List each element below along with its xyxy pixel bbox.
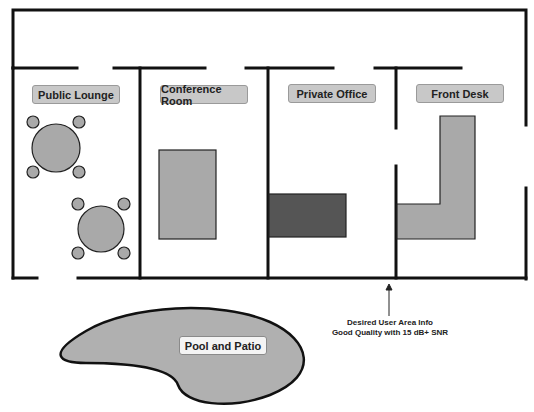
label-front-desk: Front Desk [416,84,504,103]
lounge-table-1 [27,116,85,178]
annotation-note: Desired User Area Info Good Quality with… [322,318,458,338]
arrow-icon [386,284,392,316]
annotation-line-2: Good Quality with 15 dB+ SNR [322,328,458,338]
lounge-table-2 [72,198,130,259]
label-private-office: Private Office [288,84,376,103]
label-pool-and-patio: Pool and Patio [179,336,267,355]
label-public-lounge: Public Lounge [32,85,120,104]
conference-table [159,150,216,239]
front-desk-counter [397,116,475,239]
pool-shape [61,308,304,404]
label-conference-room: Conference Room [160,85,248,104]
office-desk [269,194,346,237]
annotation-line-1: Desired User Area Info [322,318,458,328]
floor-plan [0,0,534,412]
